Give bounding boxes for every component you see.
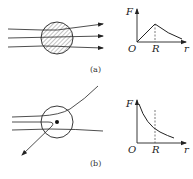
origin-label: O [128,43,136,54]
force-curve [139,104,174,138]
y-axis-label: F [125,6,134,17]
force-graph-b: F O R r [125,98,190,155]
force-curve [137,24,182,42]
x-axis-label: r [184,144,190,155]
panel-b: F O R r (b) [12,86,190,168]
origin-label: O [128,144,136,155]
y-axis-label: F [125,98,134,109]
nucleus [55,120,59,124]
force-graph-a: F O R r [125,6,190,54]
x-axis-label: r [184,43,190,54]
scattering-figure: F O R r (a) F O R r (b) [0,0,193,179]
panel-a: F O R r (a) [8,6,190,74]
radius-label: R [151,144,160,155]
radius-label: R [151,43,160,54]
caption-a: (a) [90,65,101,74]
caption-b: (b) [90,159,101,168]
charged-sphere [41,22,73,54]
